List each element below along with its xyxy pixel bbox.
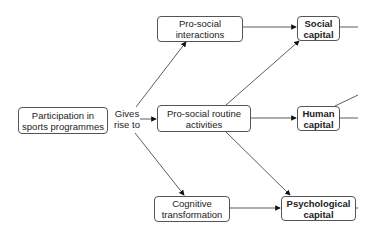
- node-routine-label: Pro-social routine activities: [158, 108, 250, 130]
- node-pro-social-routine: Pro-social routine activities: [157, 105, 251, 132]
- node-human-capital-label: Human capital: [298, 108, 339, 130]
- edge-to-interactions: [136, 42, 186, 107]
- node-psychological-capital: Psychological capital: [281, 196, 356, 221]
- node-cognitive-label: Cognitive transformation: [155, 198, 229, 220]
- node-human-capital: Human capital: [297, 106, 340, 131]
- node-social-capital-label: Social capital: [298, 18, 339, 40]
- node-social-capital: Social capital: [297, 16, 340, 41]
- edge-human-out-upper: [335, 95, 358, 106]
- node-participation: Participation in sports programmes: [18, 107, 108, 134]
- node-interactions-label: Pro-social interactions: [158, 18, 242, 40]
- node-cognitive-transformation: Cognitive transformation: [154, 196, 230, 222]
- edge-to-cognitive: [135, 133, 184, 195]
- edge-routine-psych: [226, 132, 290, 195]
- node-participation-label: Participation in sports programmes: [19, 110, 107, 132]
- edge-routine-social: [226, 41, 299, 105]
- edge-label-gives-rise-to: Gives rise to: [113, 108, 141, 130]
- node-psych-capital-label: Psychological capital: [282, 198, 355, 220]
- node-pro-social-interactions: Pro-social interactions: [157, 16, 243, 42]
